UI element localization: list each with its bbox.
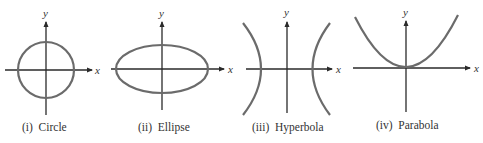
x-axis-label: x <box>227 63 233 75</box>
caption-circle: (i) Circle <box>22 121 67 134</box>
caption-parabola: (iv) Parabola <box>376 119 439 132</box>
x-axis-label: x <box>473 62 479 74</box>
y-axis-label: y <box>283 6 289 18</box>
panel-hyperbola: x y (iii) Hyperbola <box>243 6 341 134</box>
caption-ellipse: (ii) Ellipse <box>138 121 190 134</box>
x-axis-label: x <box>94 64 100 76</box>
y-axis-label: y <box>402 6 408 18</box>
y-axis-label: y <box>158 7 164 19</box>
panel-circle: x y (i) Circle <box>5 7 100 134</box>
y-axis-label: y <box>42 7 48 19</box>
caption-hyperbola: (iii) Hyperbola <box>252 121 324 134</box>
conic-sections-figure: x y (i) Circle x y (ii) Ellipse x y (iii… <box>0 0 483 143</box>
x-axis-label: x <box>335 63 341 75</box>
panel-parabola: x y (iv) Parabola <box>353 6 479 132</box>
panel-ellipse: x y (ii) Ellipse <box>111 7 233 134</box>
